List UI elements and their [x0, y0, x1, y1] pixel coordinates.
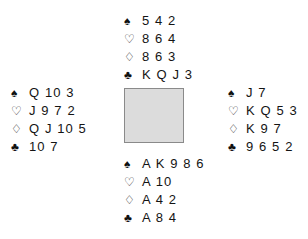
center-table-box — [124, 88, 184, 143]
west-diamond-row: ♢ Q J 10 5 — [11, 120, 87, 138]
north-spades: 5 4 2 — [138, 12, 176, 30]
west-hearts: J 9 7 2 — [25, 102, 76, 120]
heart-icon: ♡ — [228, 102, 242, 120]
hand-north: ♠ 5 4 2 ♡ 8 6 4 ♢ 8 6 3 ♣ K Q J 3 — [124, 12, 193, 84]
east-spade-row: ♠ J 7 — [228, 84, 298, 102]
west-diamonds: Q J 10 5 — [25, 120, 87, 138]
east-spades: J 7 — [242, 84, 267, 102]
spade-icon: ♠ — [124, 12, 138, 30]
diamond-icon: ♢ — [11, 120, 25, 138]
west-club-row: ♣ 10 7 — [11, 138, 87, 156]
heart-icon: ♡ — [124, 30, 138, 48]
east-clubs: 9 6 5 2 — [242, 138, 293, 156]
east-club-row: ♣ 9 6 5 2 — [228, 138, 298, 156]
north-club-row: ♣ K Q J 3 — [124, 66, 193, 84]
west-spade-row: ♠ Q 10 3 — [11, 84, 87, 102]
north-heart-row: ♡ 8 6 4 — [124, 30, 193, 48]
north-clubs: K Q J 3 — [138, 66, 193, 84]
south-heart-row: ♡ A 10 — [124, 173, 205, 191]
diamond-icon: ♢ — [124, 191, 138, 209]
west-spades: Q 10 3 — [25, 84, 75, 102]
club-icon: ♣ — [11, 138, 25, 156]
east-hearts: K Q 5 3 — [242, 102, 298, 120]
east-diamond-row: ♢ K 9 7 — [228, 120, 298, 138]
diamond-icon: ♢ — [228, 120, 242, 138]
south-diamond-row: ♢ A 4 2 — [124, 191, 205, 209]
heart-icon: ♡ — [11, 102, 25, 120]
bridge-deal-diagram: ♠ 5 4 2 ♡ 8 6 4 ♢ 8 6 3 ♣ K Q J 3 ♠ Q 10… — [0, 0, 308, 239]
heart-icon: ♡ — [124, 173, 138, 191]
south-diamonds: A 4 2 — [138, 191, 177, 209]
south-hearts: A 10 — [138, 173, 172, 191]
south-spade-row: ♠ A K 9 8 6 — [124, 155, 205, 173]
north-spade-row: ♠ 5 4 2 — [124, 12, 193, 30]
north-diamond-row: ♢ 8 6 3 — [124, 48, 193, 66]
diamond-icon: ♢ — [124, 48, 138, 66]
west-clubs: 10 7 — [25, 138, 59, 156]
east-diamonds: K 9 7 — [242, 120, 282, 138]
south-club-row: ♣ A 8 4 — [124, 209, 205, 227]
club-icon: ♣ — [124, 66, 138, 84]
north-diamonds: 8 6 3 — [138, 48, 176, 66]
south-spades: A K 9 8 6 — [138, 155, 205, 173]
hand-east: ♠ J 7 ♡ K Q 5 3 ♢ K 9 7 ♣ 9 6 5 2 — [228, 84, 298, 156]
spade-icon: ♠ — [228, 84, 242, 102]
hand-south: ♠ A K 9 8 6 ♡ A 10 ♢ A 4 2 ♣ A 8 4 — [124, 155, 205, 227]
spade-icon: ♠ — [11, 84, 25, 102]
west-heart-row: ♡ J 9 7 2 — [11, 102, 87, 120]
club-icon: ♣ — [228, 138, 242, 156]
south-clubs: A 8 4 — [138, 209, 177, 227]
north-hearts: 8 6 4 — [138, 30, 176, 48]
spade-icon: ♠ — [124, 155, 138, 173]
club-icon: ♣ — [124, 209, 138, 227]
hand-west: ♠ Q 10 3 ♡ J 9 7 2 ♢ Q J 10 5 ♣ 10 7 — [11, 84, 87, 156]
east-heart-row: ♡ K Q 5 3 — [228, 102, 298, 120]
